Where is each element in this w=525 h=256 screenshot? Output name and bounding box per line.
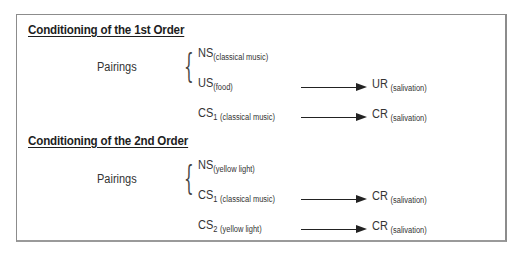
section-2-response-cr-2: CR(salivation) [372, 219, 427, 235]
section-2-pair-ns: NS(yellow light) [198, 158, 255, 174]
section-2-arrow-2-icon [301, 225, 367, 234]
section-1-arrow-1-icon [301, 83, 367, 92]
section-2-response-cr-1: CR(salivation) [372, 189, 427, 205]
section-2-stimulus-cs2: CS2(yellow light) [198, 218, 262, 234]
section-1-pair-ns: NS(classical music) [198, 46, 268, 62]
section-1-stimulus-cs1: CS1(classical music) [198, 106, 275, 122]
section-2-pair-cs1: CS1(classical music) [198, 188, 275, 204]
section-1-pairings-label: Pairings [97, 60, 137, 74]
section-1-pair-us: US(food) [198, 76, 233, 92]
section-1-response-cr: CR(salivation) [372, 107, 427, 123]
section-2-heading: Conditioning of the 2nd Order [28, 133, 188, 148]
section-1-response-ur: UR(salivation) [372, 77, 427, 93]
section-1-arrow-2-icon [301, 113, 367, 122]
section-1-heading: Conditioning of the 1st Order [28, 22, 184, 37]
section-2-arrow-1-icon [301, 195, 367, 204]
section-2-pairings-label: Pairings [97, 172, 137, 186]
section-2-brace-icon: { [184, 160, 194, 194]
section-1-brace-icon: { [184, 48, 194, 82]
